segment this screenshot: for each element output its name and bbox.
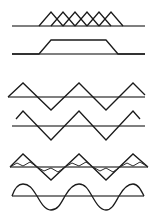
waveform-shape [63,12,87,26]
sine-curve [12,184,144,210]
waveform-shape [87,12,111,26]
panel-overlapping-triangles [12,12,145,26]
waveform-shape [99,12,123,26]
waveform-shape [12,40,145,54]
waveform-shape [39,12,63,26]
waveform-shape [75,12,99,26]
panel-trapezoid [12,40,145,54]
panel-triangle-wave-offset [12,111,145,140]
waveform-shape [51,12,75,26]
panel-sine-wave [12,184,144,210]
waveform-canvas [0,0,157,220]
waveform-diagram [0,0,157,220]
panel-triangle-wave-on-axis [8,83,145,110]
panel-triangle-wave-with-harmonic [10,154,148,180]
